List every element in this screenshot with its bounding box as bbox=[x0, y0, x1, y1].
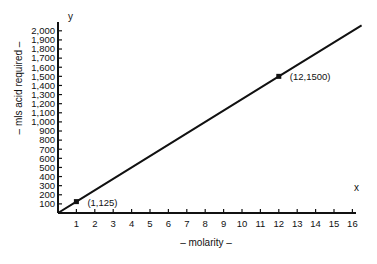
y-axis-title: – mls acid required – bbox=[13, 41, 24, 134]
x-tick-label: 13 bbox=[292, 218, 303, 229]
x-tick-label: 5 bbox=[147, 218, 152, 229]
data-point-label: (1,125) bbox=[87, 197, 117, 208]
data-point-marker bbox=[74, 199, 79, 204]
x-tick-label: 8 bbox=[203, 218, 208, 229]
x-tick-label: 9 bbox=[221, 218, 226, 229]
y-tick-label: 2,000 bbox=[31, 25, 55, 36]
x-axis-title: – molarity – bbox=[180, 237, 232, 248]
data-line bbox=[58, 25, 362, 213]
x-tick-label: 7 bbox=[184, 218, 189, 229]
x-tick-label: 6 bbox=[166, 218, 171, 229]
x-tick-label: 10 bbox=[237, 218, 248, 229]
x-tick-label: 15 bbox=[329, 218, 340, 229]
x-axis-letter: x bbox=[354, 182, 359, 193]
series-line bbox=[58, 25, 362, 213]
x-tick-label: 14 bbox=[310, 218, 321, 229]
data-point-marker bbox=[276, 74, 281, 79]
point-annotations: (1,125)(12,1500) bbox=[74, 71, 331, 207]
data-point-label: (12,1500) bbox=[290, 71, 331, 82]
x-tick-label: 11 bbox=[255, 218, 265, 229]
x-tick-label: 2 bbox=[92, 218, 97, 229]
x-tick-label: 12 bbox=[274, 218, 285, 229]
x-tick-label: 16 bbox=[347, 218, 358, 229]
y-axis-letter: y bbox=[68, 11, 73, 22]
x-tick-label: 3 bbox=[111, 218, 116, 229]
x-tick-label: 4 bbox=[129, 218, 134, 229]
x-tick-label: 1 bbox=[74, 218, 79, 229]
chart: 1002003004005006007008009001,0001,1001,2… bbox=[0, 0, 377, 264]
